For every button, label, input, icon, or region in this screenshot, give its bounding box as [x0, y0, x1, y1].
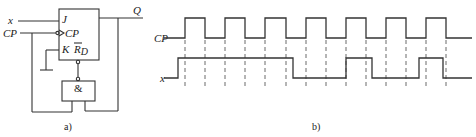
- caption-b: b): [312, 121, 320, 133]
- and-gate-symbol: &: [74, 82, 83, 94]
- output-q-label: Q: [133, 4, 141, 16]
- rd-inversion-bubble: [76, 60, 79, 63]
- input-cp-label: CP: [3, 27, 17, 39]
- pin-k-label: K: [61, 43, 70, 55]
- cp-waveform: [164, 18, 472, 38]
- input-x-label: x: [7, 14, 13, 26]
- caption-a: a): [64, 121, 72, 133]
- pin-cp-label: CP: [65, 27, 79, 39]
- pin-rd-label: RD: [73, 43, 89, 57]
- timing-diagram: CP x b): [154, 18, 472, 133]
- figure: x CP J CP K RD & Q a): [0, 0, 476, 137]
- and-output-bubble: [76, 77, 79, 80]
- dashed-guides: [185, 40, 446, 86]
- clock-triangle-icon: [59, 30, 64, 36]
- jk-flipflop-circuit: x CP J CP K RD & Q a): [3, 4, 143, 133]
- pin-j-label: J: [62, 13, 68, 25]
